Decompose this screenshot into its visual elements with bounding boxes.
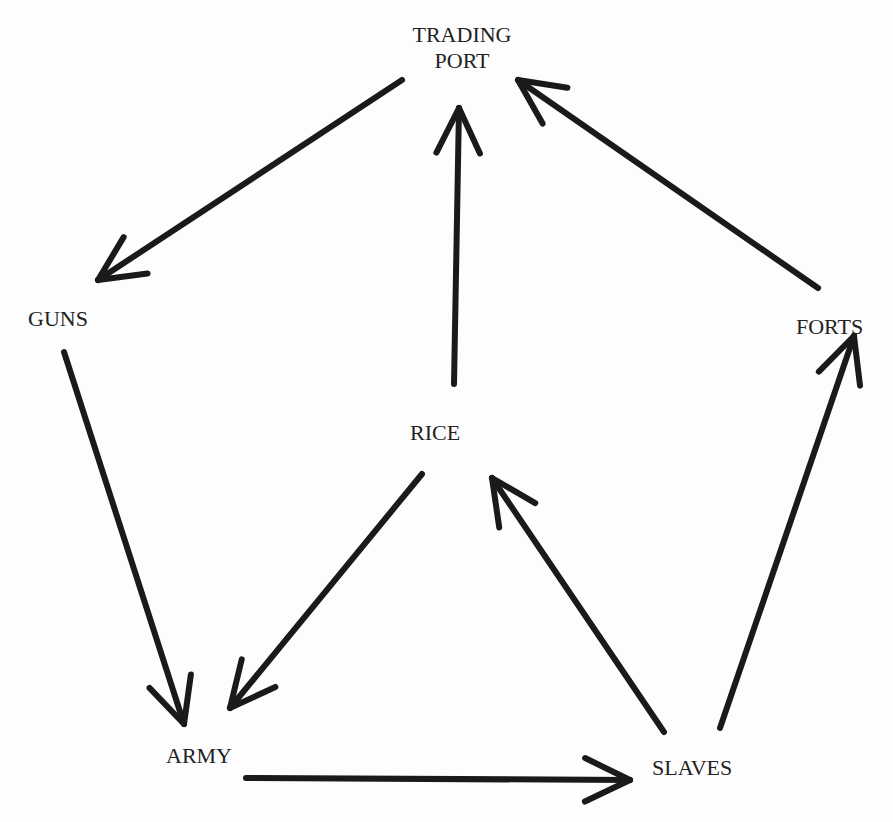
- arrow-army-to-slaves: [246, 758, 630, 801]
- arrowhead-icon: [585, 758, 630, 780]
- arrow-guns-to-army: [64, 352, 191, 724]
- arrowhead-icon: [184, 674, 191, 724]
- arrow-forts-to-trading-port: [518, 80, 818, 288]
- arrow-layer: [0, 0, 893, 822]
- node-label-line1: TRADING: [402, 22, 522, 48]
- node-forts: FORTS: [796, 314, 863, 340]
- node-label-line2: PORT: [402, 48, 522, 74]
- node-guns: GUNS: [28, 306, 88, 332]
- arrow-slaves-to-rice: [492, 478, 664, 732]
- arrowhead-icon: [585, 780, 630, 802]
- arrow-rice-to-army: [230, 474, 422, 708]
- arrowhead-icon: [854, 336, 860, 386]
- arrow-trading-port-to-guns: [98, 80, 402, 280]
- arrow-rice-to-trading-port: [436, 108, 479, 384]
- node-trading-port: TRADING PORT: [402, 22, 522, 74]
- diagram-canvas: TRADING PORT GUNS FORTS RICE ARMY SLAVES: [0, 0, 893, 822]
- arrowhead-icon: [459, 108, 480, 153]
- node-army: ARMY: [166, 743, 232, 769]
- node-slaves: SLAVES: [652, 755, 732, 781]
- node-rice: RICE: [410, 420, 460, 446]
- arrow-slaves-to-forts: [720, 336, 860, 728]
